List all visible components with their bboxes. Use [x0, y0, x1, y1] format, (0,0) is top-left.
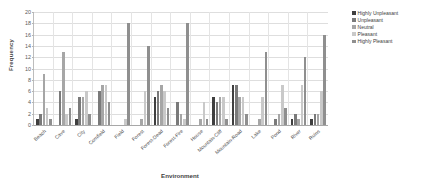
- bar: [127, 23, 130, 125]
- x-axis-tick-label-text: City: [76, 128, 86, 138]
- bar: [265, 52, 268, 125]
- x-axis-tick-label: Lake: [249, 126, 269, 174]
- x-axis-tick-label: Forest-Dead: [151, 126, 171, 174]
- legend-label: Unpleasant: [358, 17, 383, 23]
- bar: [238, 97, 241, 125]
- bar: [82, 97, 85, 125]
- bar: [154, 97, 157, 125]
- x-axis-tick-label: Ruins: [307, 126, 327, 174]
- x-axis-tick-label-text: River: [289, 128, 302, 140]
- x-axis-tick-label-text: Cave: [54, 128, 67, 140]
- bar: [59, 91, 62, 125]
- bar: [291, 119, 294, 125]
- bar: [314, 114, 317, 125]
- bar: [261, 97, 264, 125]
- bar: [88, 114, 91, 125]
- bar: [78, 97, 81, 125]
- bar: [62, 52, 65, 125]
- bar-group: [171, 12, 191, 125]
- plot-area: 02468101214161820: [33, 12, 328, 126]
- bar: [186, 23, 189, 125]
- bar: [232, 85, 235, 125]
- legend: Highly UnpleasantUnpleasantNeutralPleasa…: [352, 10, 398, 44]
- bar: [180, 114, 183, 125]
- bar: [46, 108, 49, 125]
- bar-group: [93, 12, 113, 125]
- bar: [297, 119, 300, 125]
- y-axis-tick-label: 20: [25, 9, 31, 15]
- legend-item[interactable]: Neutral: [352, 24, 398, 30]
- y-axis-tick-label: 2: [28, 111, 31, 117]
- legend-item[interactable]: Highly Unpleasant: [352, 10, 398, 16]
- bar-group: [210, 12, 230, 125]
- legend-label: Pleasant: [358, 31, 377, 37]
- bar: [212, 97, 215, 125]
- bar: [278, 114, 281, 125]
- legend-item[interactable]: Pleasant: [352, 31, 398, 37]
- legend-swatch-icon: [352, 25, 356, 29]
- bar: [163, 91, 166, 125]
- x-axis-tick-label: Forest-Fire: [170, 126, 190, 174]
- y-axis-tick-label: 4: [28, 99, 31, 105]
- bar: [222, 97, 225, 125]
- x-axis-tick-label: Forest: [131, 126, 151, 174]
- x-axis-tick-label-text: Beach: [32, 128, 47, 142]
- bar-group: [269, 12, 289, 125]
- x-axis-tick-label-text: Field: [113, 128, 125, 140]
- x-axis-tick-label-text: House: [189, 128, 204, 142]
- bar: [242, 97, 245, 125]
- bar: [320, 91, 323, 125]
- x-axis-tick-label: River: [288, 126, 308, 174]
- y-axis-tick-label: 6: [28, 88, 31, 94]
- bar: [147, 46, 150, 125]
- bar: [105, 85, 108, 125]
- bar: [75, 119, 78, 125]
- bar: [284, 108, 287, 125]
- y-axis-tick-label: 16: [25, 32, 31, 38]
- bar-group: [308, 12, 328, 125]
- bar-group: [54, 12, 74, 125]
- bar: [219, 97, 222, 125]
- bar: [144, 91, 147, 125]
- legend-swatch-icon: [352, 18, 356, 22]
- bar: [199, 119, 202, 125]
- bar-group: [73, 12, 93, 125]
- x-axis-tick-label: Field: [111, 126, 131, 174]
- x-axis-tick-label-text: Pond: [269, 128, 282, 140]
- bar: [281, 85, 284, 125]
- bar: [304, 57, 307, 125]
- x-axis-tick-label-text: Forest: [130, 128, 145, 142]
- bar: [183, 119, 186, 125]
- bar: [49, 119, 52, 125]
- bar: [140, 119, 143, 125]
- x-axis-tick-label: Beach: [33, 126, 53, 174]
- bar: [101, 85, 104, 125]
- bar-group: [112, 12, 132, 125]
- bar: [65, 114, 68, 125]
- bar-group: [230, 12, 250, 125]
- bar-groups: [34, 12, 328, 125]
- bar: [245, 114, 248, 125]
- bar-group: [191, 12, 211, 125]
- bar-group: [152, 12, 172, 125]
- x-axis-tick-labels: BeachCaveCityCornfieldFieldForestForest-…: [33, 126, 327, 174]
- bar: [274, 119, 277, 125]
- y-axis-tick-label: 8: [28, 77, 31, 83]
- bar: [85, 91, 88, 125]
- x-axis-tick-label-text: Lake: [250, 128, 262, 140]
- legend-item[interactable]: Highly Pleasant: [352, 38, 398, 44]
- bar: [43, 74, 46, 125]
- bar: [157, 91, 160, 125]
- x-axis-tick-label-text: Ruins: [308, 128, 322, 141]
- bar: [39, 114, 42, 125]
- bar: [124, 119, 127, 125]
- bar: [108, 102, 111, 125]
- bar: [176, 102, 179, 125]
- y-axis-title: Frequency: [8, 24, 14, 86]
- y-axis-tick-label: 14: [25, 43, 31, 49]
- bar-group: [289, 12, 309, 125]
- bar: [317, 114, 320, 125]
- y-axis-tick-label: 10: [25, 66, 31, 72]
- legend-item[interactable]: Unpleasant: [352, 17, 398, 23]
- legend-label: Highly Unpleasant: [358, 10, 399, 16]
